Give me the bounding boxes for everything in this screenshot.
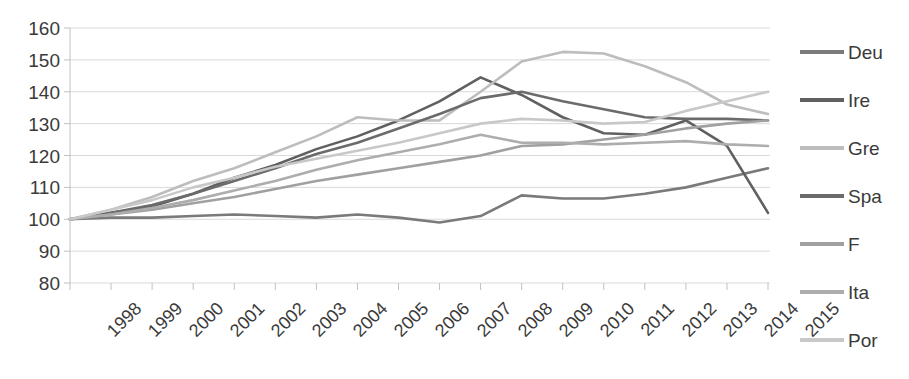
legend-label: F bbox=[848, 235, 860, 254]
legend-item-spa[interactable]: Spa bbox=[800, 186, 882, 206]
legend-label: Ire bbox=[848, 91, 870, 110]
legend-swatch-icon bbox=[800, 242, 844, 246]
line-chart: 8090100110120130140150160 19981999200020… bbox=[0, 0, 909, 379]
legend-swatch-icon bbox=[800, 338, 844, 342]
legend-swatch-icon bbox=[800, 98, 844, 102]
legend-item-gre[interactable]: Gre bbox=[800, 138, 880, 158]
legend-label: Gre bbox=[848, 139, 880, 158]
legend-swatch-icon bbox=[800, 290, 844, 294]
legend-swatch-icon bbox=[800, 50, 844, 54]
legend-item-ire[interactable]: Ire bbox=[800, 90, 870, 110]
legend-item-f[interactable]: F bbox=[800, 234, 860, 254]
plot-area bbox=[0, 0, 909, 379]
legend-item-por[interactable]: Por bbox=[800, 330, 878, 350]
data-series-group bbox=[70, 52, 768, 223]
legend-label: Deu bbox=[848, 43, 883, 62]
gridlines bbox=[64, 28, 770, 283]
legend-label: Ita bbox=[848, 283, 869, 302]
chart-legend: DeuIreGreSpaFItaPor bbox=[800, 0, 909, 379]
legend-swatch-icon bbox=[800, 146, 844, 150]
legend-label: Spa bbox=[848, 187, 882, 206]
x-axis-ticks bbox=[70, 283, 768, 290]
legend-swatch-icon bbox=[800, 194, 844, 198]
legend-item-ita[interactable]: Ita bbox=[800, 282, 869, 302]
legend-label: Por bbox=[848, 331, 878, 350]
legend-item-deu[interactable]: Deu bbox=[800, 42, 883, 62]
series-line-deu bbox=[70, 168, 768, 222]
